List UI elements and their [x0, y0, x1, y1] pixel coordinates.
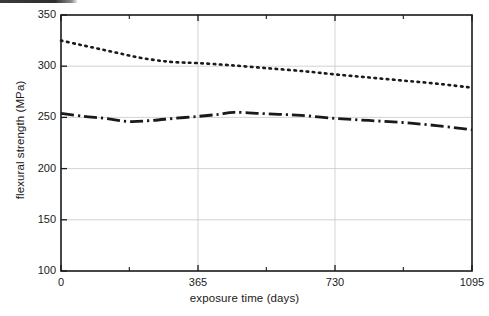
x-axis-title: exposure time (days) [0, 292, 489, 304]
x-tick-label: 1095 [450, 276, 489, 288]
y-tick-label: 350 [26, 8, 56, 20]
series-line-0 [61, 41, 472, 88]
y-tick-label: 300 [26, 59, 56, 71]
data-series-group [61, 41, 472, 130]
plot-canvas [0, 0, 489, 316]
y-axis-title-wrap: flexural strength (MPa) [10, 0, 30, 280]
chart-figure: flexural strength (MPa) exposure time (d… [0, 0, 489, 316]
y-ticks-group [61, 15, 67, 271]
x-minor-ticks-group [129, 15, 403, 271]
y-tick-label: 250 [26, 110, 56, 122]
series-line-1 [61, 112, 472, 129]
y-axis-title: flexural strength (MPa) [14, 81, 26, 200]
y-tick-label: 150 [26, 213, 56, 225]
x-tick-label: 365 [176, 276, 220, 288]
y-tick-label: 200 [26, 162, 56, 174]
y-tick-label: 100 [26, 264, 56, 276]
x-tick-label: 0 [39, 276, 83, 288]
x-tick-label: 730 [313, 276, 357, 288]
